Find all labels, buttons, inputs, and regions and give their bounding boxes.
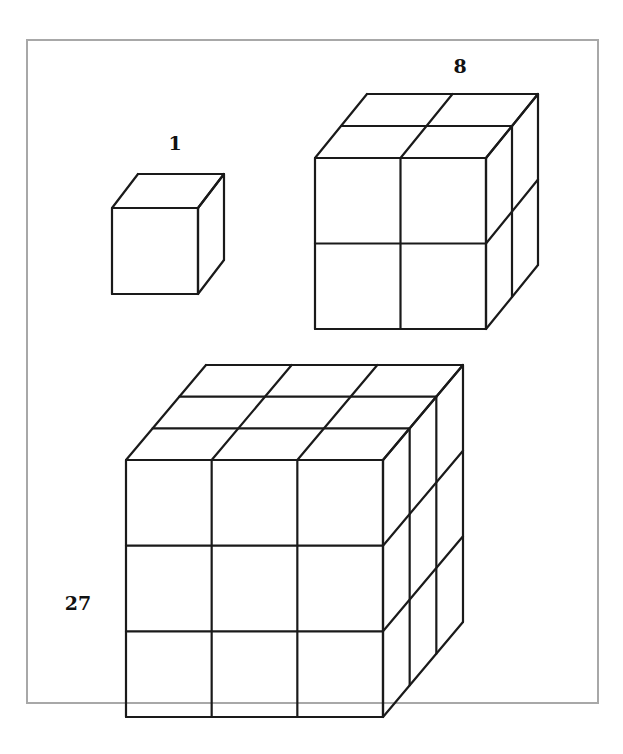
cube-2x2x2 <box>315 94 538 329</box>
cube-3x3x3 <box>126 365 463 717</box>
cube-8-label: 8 <box>453 55 466 77</box>
cube-edge <box>198 260 224 294</box>
cube-diagram: 1 8 27 <box>0 0 623 754</box>
cube-edge <box>383 365 463 460</box>
cube-27-label: 27 <box>65 592 91 614</box>
cube-edge <box>383 451 463 546</box>
unit-cube <box>112 174 224 294</box>
cube-1-label: 1 <box>168 132 181 154</box>
cube-edge <box>212 365 292 460</box>
cube-edge <box>383 536 463 631</box>
cube-edge <box>112 174 138 208</box>
cube-edge <box>126 365 206 460</box>
cube-edge <box>297 365 377 460</box>
cube-edge <box>198 174 224 208</box>
